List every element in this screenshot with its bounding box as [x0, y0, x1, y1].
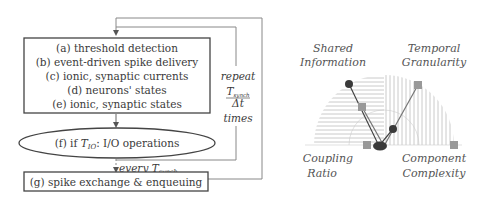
label-component: Component	[402, 152, 467, 165]
label-complexity: Complexity	[403, 167, 467, 180]
step-g: (g) spike exchange & enqueuing	[30, 176, 203, 188]
step-a: (a) threshold detection	[56, 42, 178, 54]
times-label: times	[223, 112, 253, 124]
label-ratio: Ratio	[306, 167, 337, 180]
label-temporal: Temporal	[408, 42, 461, 55]
square-point-coupling	[363, 141, 371, 149]
step-c: (c) ionic, synaptic currents	[46, 70, 189, 82]
step-e: (e) ionic, synaptic states	[52, 98, 182, 110]
label-coupling: Coupling	[303, 152, 353, 165]
circle-point-shared-info	[345, 80, 353, 88]
flowchart: (a) threshold detection (b) event-driven…	[19, 18, 262, 191]
square-point-temporal	[414, 81, 422, 89]
io-ellipse-text: (f) if TIO: I/O operations	[55, 137, 180, 151]
square-point-component	[450, 141, 458, 149]
radar-chart: Shared Information Temporal Granularity …	[299, 42, 467, 180]
circle-point-component	[389, 125, 397, 133]
label-shared: Shared	[313, 42, 353, 55]
step-b: (b) event-driven spike delivery	[36, 56, 199, 68]
fraction-denominator: Δt	[231, 97, 245, 109]
step-d: (d) neurons' states	[67, 84, 166, 96]
label-information: Information	[299, 56, 366, 69]
label-granularity: Granularity	[402, 56, 467, 69]
circle-point-coupling	[373, 142, 387, 151]
figure-canvas: (a) threshold detection (b) event-driven…	[0, 0, 481, 215]
repeat-label: repeat	[221, 70, 256, 82]
square-point-shared-info	[358, 103, 366, 111]
